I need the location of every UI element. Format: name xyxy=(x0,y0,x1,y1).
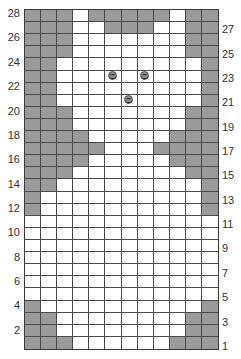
chart-cell-r12-c1 xyxy=(25,204,41,216)
chart-cell-r28-c8 xyxy=(138,10,154,22)
chart-cell-r17-c12 xyxy=(202,143,218,155)
chart-cell-r19-c9 xyxy=(154,119,170,131)
chart-cell-r15-c7 xyxy=(122,167,138,179)
chart-cell-r3-c12 xyxy=(202,313,218,325)
chart-cell-r5-c10 xyxy=(170,288,186,300)
chart-cell-r19-c10 xyxy=(170,119,186,131)
chart-cell-r1-c12 xyxy=(202,337,218,349)
chart-cell-r16-c9 xyxy=(154,155,170,167)
chart-cell-r12-c12 xyxy=(202,204,218,216)
chart-cell-r13-c6 xyxy=(105,192,121,204)
chart-cell-r17-c3 xyxy=(57,143,73,155)
chart-cell-r9-c1 xyxy=(25,240,41,252)
chart-cell-r6-c7 xyxy=(122,276,138,288)
chart-cell-r17-c1 xyxy=(25,143,41,155)
chart-cell-r5-c9 xyxy=(154,288,170,300)
chart-cell-r24-c12 xyxy=(202,58,218,70)
chart-cell-r23-c3 xyxy=(57,71,73,83)
chart-cell-r27-c6 xyxy=(105,22,121,34)
chart-cell-r27-c5 xyxy=(89,22,105,34)
chart-cell-r26-c3 xyxy=(57,34,73,46)
chart-cell-r10-c12 xyxy=(202,228,218,240)
chart-cell-r16-c10 xyxy=(170,155,186,167)
chart-cell-r5-c1 xyxy=(25,288,41,300)
chart-cell-r20-c5 xyxy=(89,107,105,119)
chart-cell-r11-c11 xyxy=(186,216,202,228)
chart-cell-r22-c3 xyxy=(57,83,73,95)
chart-cell-r22-c12 xyxy=(202,83,218,95)
chart-cell-r24-c10 xyxy=(170,58,186,70)
chart-cell-r21-c3 xyxy=(57,95,73,107)
chart-cell-r4-c6 xyxy=(105,301,121,313)
chart-cell-r11-c2 xyxy=(41,216,57,228)
row-label-20: 20 xyxy=(4,105,20,117)
chart-cell-r23-c5 xyxy=(89,71,105,83)
chart-cell-r8-c8 xyxy=(138,252,154,264)
row-label-17: 17 xyxy=(222,145,240,157)
chart-cell-r18-c8 xyxy=(138,131,154,143)
chart-cell-r10-c4 xyxy=(73,228,89,240)
row-label-26: 26 xyxy=(4,31,20,43)
chart-cell-r16-c11 xyxy=(186,155,202,167)
chart-cell-r28-c10 xyxy=(170,10,186,22)
chart-cell-r24-c8 xyxy=(138,58,154,70)
chart-cell-r4-c8 xyxy=(138,301,154,313)
chart-cell-r18-c3 xyxy=(57,131,73,143)
chart-cell-r17-c10 xyxy=(170,143,186,155)
chart-cell-r21-c5 xyxy=(89,95,105,107)
chart-cell-r18-c11 xyxy=(186,131,202,143)
chart-cell-r3-c11 xyxy=(186,313,202,325)
chart-cell-r9-c10 xyxy=(170,240,186,252)
row-label-18: 18 xyxy=(4,129,20,141)
chart-cell-r23-c7 xyxy=(122,71,138,83)
chart-cell-r19-c11 xyxy=(186,119,202,131)
chart-cell-r28-c11 xyxy=(186,10,202,22)
chart-cell-r1-c7 xyxy=(122,337,138,349)
chart-cell-r9-c6 xyxy=(105,240,121,252)
chart-cell-r17-c7 xyxy=(122,143,138,155)
chart-cell-r8-c1 xyxy=(25,252,41,264)
chart-cell-r11-c1 xyxy=(25,216,41,228)
chart-cell-r10-c3 xyxy=(57,228,73,240)
chart-cell-r15-c3 xyxy=(57,167,73,179)
chart-cell-r10-c9 xyxy=(154,228,170,240)
chart-cell-r7-c1 xyxy=(25,264,41,276)
chart-cell-r26-c2 xyxy=(41,34,57,46)
chart-cell-r14-c12 xyxy=(202,179,218,191)
chart-cell-r25-c1 xyxy=(25,46,41,58)
bobble-knot-icon xyxy=(124,95,133,104)
chart-cell-r27-c4 xyxy=(73,22,89,34)
chart-cell-r27-c1 xyxy=(25,22,41,34)
chart-cell-r23-c2 xyxy=(41,71,57,83)
chart-cell-r20-c11 xyxy=(186,107,202,119)
chart-cell-r25-c8 xyxy=(138,46,154,58)
chart-cell-r15-c5 xyxy=(89,167,105,179)
chart-cell-r6-c11 xyxy=(186,276,202,288)
chart-cell-r2-c5 xyxy=(89,325,105,337)
chart-cell-r25-c3 xyxy=(57,46,73,58)
chart-cell-r1-c1 xyxy=(25,337,41,349)
chart-cell-r13-c7 xyxy=(122,192,138,204)
chart-cell-r18-c1 xyxy=(25,131,41,143)
row-label-12: 12 xyxy=(4,202,20,214)
chart-cell-r18-c5 xyxy=(89,131,105,143)
chart-cell-r22-c4 xyxy=(73,83,89,95)
chart-cell-r7-c6 xyxy=(105,264,121,276)
chart-cell-r3-c10 xyxy=(170,313,186,325)
chart-cell-r2-c10 xyxy=(170,325,186,337)
chart-cell-r25-c4 xyxy=(73,46,89,58)
chart-cell-r28-c1 xyxy=(25,10,41,22)
chart-cell-r27-c10 xyxy=(170,22,186,34)
chart-cell-r13-c10 xyxy=(170,192,186,204)
chart-cell-r5-c2 xyxy=(41,288,57,300)
chart-cell-r4-c1 xyxy=(25,301,41,313)
chart-cell-r5-c4 xyxy=(73,288,89,300)
chart-cell-r12-c4 xyxy=(73,204,89,216)
chart-cell-r23-c6 xyxy=(105,71,121,83)
chart-cell-r5-c11 xyxy=(186,288,202,300)
chart-cell-r10-c1 xyxy=(25,228,41,240)
chart-cell-r7-c2 xyxy=(41,264,57,276)
chart-cell-r28-c12 xyxy=(202,10,218,22)
chart-cell-r15-c2 xyxy=(41,167,57,179)
chart-cell-r5-c3 xyxy=(57,288,73,300)
